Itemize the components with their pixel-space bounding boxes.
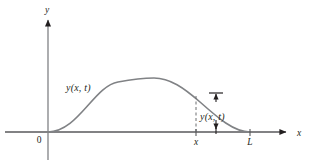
origin-label: 0: [37, 135, 42, 145]
displacement-label: y(x, t): [199, 111, 225, 123]
figure-canvas: y x 0 y(x, t) y(x, t) x L: [0, 0, 311, 168]
y-axis-label: y: [44, 5, 50, 15]
wave-diagram-figure: y x 0 y(x, t) y(x, t) x L: [0, 0, 311, 168]
position-tick-label: x: [193, 137, 199, 147]
x-axis-label: x: [296, 128, 302, 138]
curve-label: y(x, t): [65, 82, 91, 94]
length-tick-label: L: [246, 137, 252, 147]
